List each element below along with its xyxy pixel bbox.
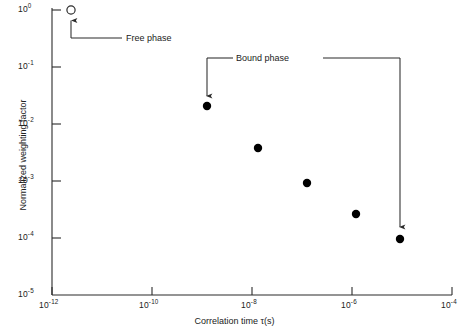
x-tick-label-2: 10-8 [241,300,257,310]
axis-lines [52,8,452,295]
data-point[interactable] [203,102,211,110]
data-point[interactable] [303,179,311,187]
y-tick-label-5: 10-5 [18,289,34,299]
bound-phase-markers [203,102,404,243]
data-point[interactable] [352,210,360,218]
x-tick-label-0: 10-12 [39,300,59,310]
annotation-bound-phase: Bound phase [236,53,289,63]
x-tick-label-4: 10-4 [441,300,457,310]
data-point[interactable] [396,235,404,243]
annotation-free-phase: Free phase [126,33,172,43]
free-phase-leader [71,21,122,39]
x-tick-label-1: 10-10 [139,300,159,310]
figure-container: 100 10-1 10-2 10-3 10-4 10-5 10-12 10-10… [0,0,469,335]
data-markers [67,6,404,243]
y-axis-label: Normalized weighting factor [18,70,28,240]
bound-phase-leader [207,58,400,227]
y-axis-ticks [52,10,61,238]
x-axis-ticks [52,287,452,295]
free-phase-marker[interactable] [67,6,75,14]
x-axis-label: Correlation time τ(s) [0,316,469,326]
data-point[interactable] [254,144,262,152]
scatter-plot [0,0,469,335]
y-tick-label-0: 100 [18,4,32,14]
x-tick-label-3: 10-6 [341,300,357,310]
